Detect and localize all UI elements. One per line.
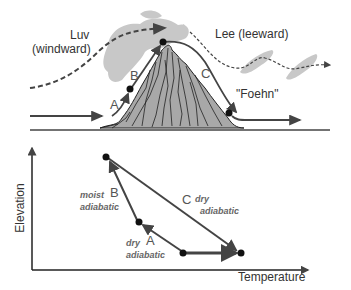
segment-a-process-line1: dry — [126, 238, 141, 248]
segment-b-label: B — [130, 68, 139, 83]
segment-b-process-line2: adiabatic — [80, 202, 119, 212]
segment-c-process-line2: adiabatic — [200, 206, 239, 216]
outflow-arrow — [232, 116, 300, 120]
diagram-segment-c — [108, 158, 236, 250]
bottom-panel: Elevation Temperature A B C dry adiabati… — [13, 148, 308, 284]
x-axis-label: Temperature — [238, 270, 306, 284]
parcel-point-summit — [160, 39, 167, 46]
windward-label-line2: (windward) — [32, 42, 91, 56]
diagram-point-end — [238, 250, 245, 257]
leeward-label: Lee (leeward) — [215, 27, 288, 41]
segment-a-label: A — [110, 97, 119, 112]
foehn-diagram: Luv (windward) Lee (leeward) "Foehn" A B… — [0, 0, 351, 290]
y-axis-label: Elevation — [13, 183, 27, 232]
diagram-point-summit — [103, 154, 110, 161]
diagram-segment-c-letter: C — [182, 192, 191, 207]
diagram-segment-b-letter: B — [110, 185, 119, 200]
diagram-point-condensation — [136, 219, 143, 226]
segment-c-process-line1: dry — [195, 194, 210, 204]
foehn-label: "Foehn" — [236, 87, 279, 101]
parcel-point-condensation — [127, 86, 134, 93]
top-panel: Luv (windward) Lee (leeward) "Foehn" A B… — [30, 10, 330, 130]
diagram-point-start — [180, 250, 187, 257]
parcel-point-lee-base — [226, 110, 233, 117]
segment-b-process-line1: moist — [80, 190, 105, 200]
diagram-segment-a-letter: A — [146, 233, 155, 248]
windward-label-line1: Luv — [70, 28, 89, 42]
segment-c-label: C — [201, 66, 210, 81]
segment-a-process-line2: adiabatic — [126, 250, 165, 260]
